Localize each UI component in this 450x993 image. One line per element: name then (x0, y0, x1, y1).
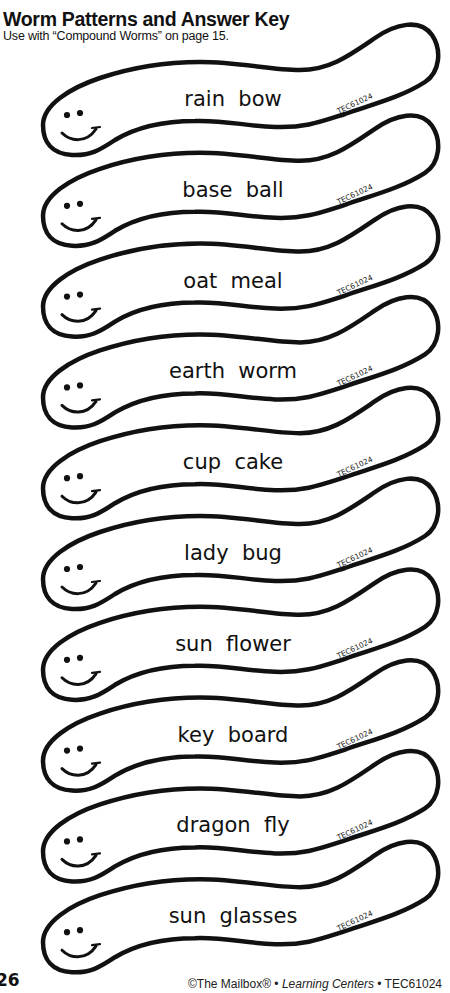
compound-word: base ball (182, 178, 283, 202)
footer-copyright: ©The Mailbox® • (188, 977, 282, 991)
compound-word: sun flower (175, 632, 291, 656)
compound-word: sun glasses (169, 904, 298, 928)
compound-word: cup cake (183, 450, 283, 474)
compound-word: rain bow (184, 87, 281, 111)
footer-code: • TEC61024 (374, 977, 442, 991)
compound-word: dragon fly (176, 813, 289, 837)
compound-word: lady bug (184, 541, 282, 565)
footer-credit: ©The Mailbox® • Learning Centers • TEC61… (188, 977, 442, 991)
compound-word: key board (178, 723, 289, 747)
compound-word: earth worm (169, 359, 297, 383)
worm-patterns: rain bowTEC61024base ballTEC61024oat mea… (0, 0, 450, 993)
page-number: 26 (0, 970, 20, 990)
compound-word: oat meal (183, 269, 282, 293)
footer-publication: Learning Centers (282, 977, 374, 991)
